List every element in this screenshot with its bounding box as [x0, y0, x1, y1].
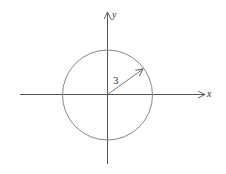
- radius-label: 3: [113, 74, 119, 86]
- y-axis-label: y: [111, 9, 117, 20]
- circle-diagram: 3 x y: [0, 0, 226, 174]
- x-axis-label: x: [206, 88, 212, 99]
- diagram-canvas: 3 x y: [0, 0, 226, 174]
